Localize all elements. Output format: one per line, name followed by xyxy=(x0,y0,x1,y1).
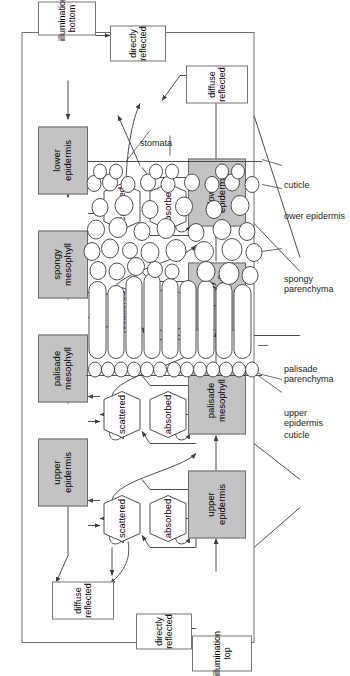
leaf-label-stomata-text: stomata xyxy=(140,137,172,147)
leaf-label-upper-epidermis: upper epidermis xyxy=(284,397,348,427)
leaf-label-lower-epidermis-text: ower epidermis xyxy=(284,210,345,220)
leaf-label-palisade-parenchyma-text: palisade parenchyma xyxy=(284,363,334,383)
leaf-label-stomata: stomata xyxy=(140,127,196,147)
leaf-label-upper-epidermis-text: upper epidermis xyxy=(284,407,323,427)
leaf-label-cuticle-lower-text: cuticle xyxy=(284,179,310,189)
leaf-label-spongy-parenchyma: spongy parenchyma xyxy=(284,263,350,293)
leaf-label-palisade-parenchyma: palisade parenchyma xyxy=(284,353,350,383)
leaf-label-lower-epidermis: ower epidermis xyxy=(284,200,350,220)
leaf-label-spongy-parenchyma-text: spongy parenchyma xyxy=(284,273,334,293)
leaf-label-cuticle-upper-text: cuticle xyxy=(284,429,310,439)
leaf-label-cuticle-lower: cuticle xyxy=(284,169,340,189)
